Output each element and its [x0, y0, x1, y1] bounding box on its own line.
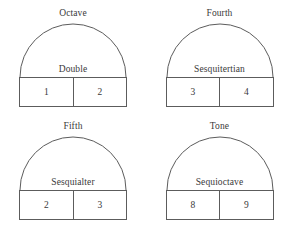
ratio-cell-right: 3 [73, 191, 127, 219]
diagram-stage: Tone Sequioctave 8 9 [166, 113, 274, 226]
ratio-box: 8 9 [166, 190, 274, 220]
ratio-box: 3 4 [166, 77, 274, 107]
ratio-name-label: Double [19, 64, 127, 75]
ratio-cell-left: 3 [167, 78, 220, 106]
ratio-name-label: Sesquialter [19, 177, 127, 188]
diagram-stage: Octave Double 1 2 [19, 0, 127, 113]
ratio-cell-left: 1 [20, 78, 73, 106]
interval-title: Octave [19, 8, 127, 19]
diagram-fifth: Fifth Sesquialter 2 3 [0, 113, 146, 226]
diagram-fourth: Fourth Sesquitertian 3 4 [146, 0, 293, 113]
interval-title: Fifth [19, 121, 127, 132]
diagram-stage: Fifth Sesquialter 2 3 [19, 113, 127, 226]
ratio-cell-right: 9 [219, 191, 273, 219]
ratio-box: 1 2 [19, 77, 127, 107]
diagram-tone: Tone Sequioctave 8 9 [146, 113, 293, 226]
diagram-stage: Fourth Sesquitertian 3 4 [166, 0, 274, 113]
ratio-name-label: Sesquitertian [166, 64, 274, 75]
ratio-cell-right: 4 [219, 78, 273, 106]
interval-title: Fourth [166, 8, 274, 19]
ratio-cell-left: 8 [167, 191, 220, 219]
interval-title: Tone [166, 121, 274, 132]
interval-diagram-grid: Octave Double 1 2 Fourth Sesquitertian [0, 0, 293, 226]
ratio-box: 2 3 [19, 190, 127, 220]
ratio-name-label: Sequioctave [166, 177, 274, 188]
ratio-cell-left: 2 [20, 191, 73, 219]
diagram-octave: Octave Double 1 2 [0, 0, 146, 113]
ratio-cell-right: 2 [73, 78, 127, 106]
